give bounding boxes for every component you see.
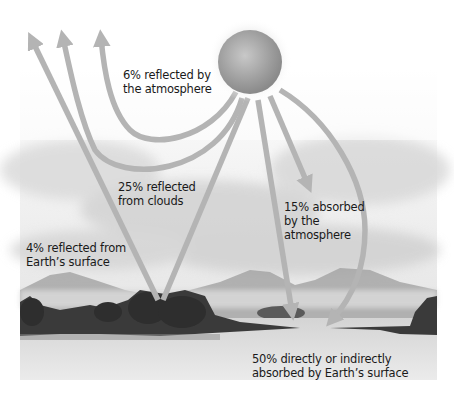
label-line: 25% reflected	[118, 180, 196, 194]
scene-illustration	[0, 0, 454, 398]
label-line: 15% absorbed	[284, 200, 365, 214]
label-line: from clouds	[118, 194, 196, 208]
solar-radiation-diagram: 6% reflected by the atmosphere 25% refle…	[0, 0, 454, 398]
label-absorbed-by-surface: 50% directly or indirectly absorbed by E…	[252, 352, 408, 380]
label-line: by the	[284, 214, 365, 228]
label-absorbed-by-atmosphere: 15% absorbed by the atmosphere	[284, 200, 365, 242]
label-line: 50% directly or indirectly	[252, 352, 408, 366]
label-line: absorbed by Earth’s surface	[252, 366, 408, 380]
label-line: 4% reflected from	[26, 241, 126, 255]
label-reflected-from-clouds: 25% reflected from clouds	[118, 180, 196, 208]
label-line: 6% reflected by	[123, 68, 212, 82]
label-reflected-from-surface: 4% reflected from Earth’s surface	[26, 241, 126, 269]
label-line: the atmosphere	[123, 82, 212, 96]
label-line: atmosphere	[284, 228, 365, 242]
sun-icon	[208, 18, 292, 102]
label-reflected-by-atmosphere: 6% reflected by the atmosphere	[123, 68, 212, 96]
label-line: Earth’s surface	[26, 255, 126, 269]
